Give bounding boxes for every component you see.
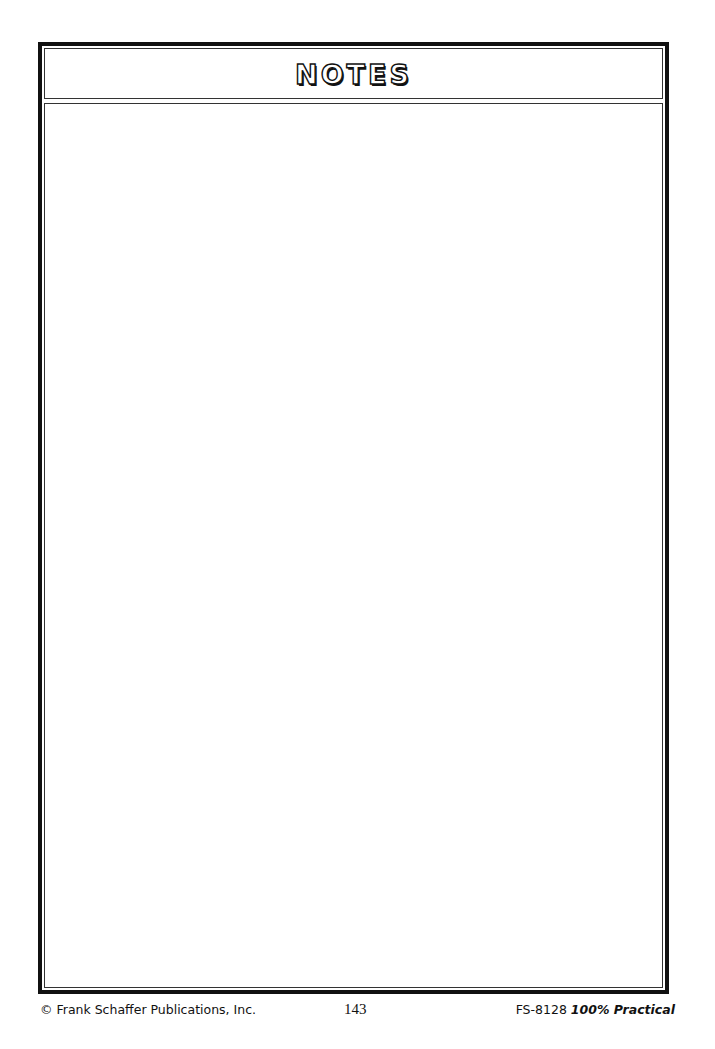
notes-writing-area [44, 103, 663, 988]
notes-page-frame: NOTES [38, 42, 669, 994]
page-title: NOTES [295, 59, 412, 88]
book-title: 100% Practical [571, 1002, 675, 1017]
book-reference: FS-8128 100% Practical [516, 1002, 675, 1017]
notes-header: NOTES [44, 48, 663, 99]
copyright-text: © Frank Schaffer Publications, Inc. [40, 1002, 256, 1017]
book-code: FS-8128 [516, 1002, 567, 1017]
page-number: 143 [344, 1001, 367, 1018]
page-footer: © Frank Schaffer Publications, Inc. 143 … [0, 1002, 715, 1026]
